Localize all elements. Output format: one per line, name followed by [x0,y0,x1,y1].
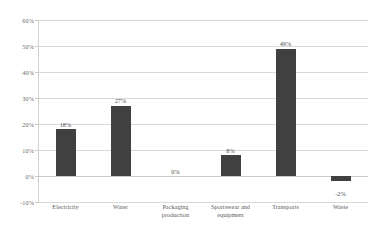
bar[interactable] [56,129,76,176]
y-tick-label: 10% [22,147,34,154]
bar-group[interactable]: -2% [313,20,368,202]
bar-value-label: 18% [60,121,72,128]
bar-group[interactable]: 8% [203,20,258,202]
bar-value-label: 27% [115,97,127,104]
bar-group[interactable]: 18% [38,20,93,202]
y-tick-label: 30% [22,95,34,102]
bar-group[interactable]: 49% [258,20,313,202]
bar-value-label: -2% [335,190,346,197]
y-tick-label: -10% [20,199,34,206]
y-tick-label: 60% [22,17,34,24]
y-tick-label: 0% [26,173,34,180]
x-category-label: Waste [333,203,348,211]
x-axis-category-labels: ElectricityWaterPackagingproductionSport… [38,203,368,229]
bar-value-label: 49% [280,40,292,47]
bar[interactable] [331,176,351,181]
y-tick-label: 50% [22,43,34,50]
x-category-label: Transports [272,203,299,211]
bar[interactable] [111,106,131,176]
bar[interactable] [276,49,296,176]
bar[interactable] [221,155,241,176]
x-category-label-line: production [162,211,189,219]
x-category-label-line: equipment [211,211,250,219]
y-tick-label: 40% [22,69,34,76]
bar-chart: 60%50%40%30%20%10%0%-10% 18%27%0%8%49%-2… [0,0,374,230]
bar-group[interactable]: 27% [93,20,148,202]
bars: 18%27%0%8%49%-2% [38,20,368,202]
bar-group[interactable]: 0% [148,20,203,202]
x-category-label: Water [113,203,128,211]
x-category-label: Packagingproduction [162,203,189,218]
bar-value-label: 8% [226,147,234,154]
plot-area: 60%50%40%30%20%10%0%-10% 18%27%0%8%49%-2… [38,20,368,202]
y-tick-label: 20% [22,121,34,128]
bar-value-label: 0% [171,168,179,175]
x-category-label: Electricity [52,203,78,211]
x-category-label: Sportswear andequipment [211,203,250,218]
